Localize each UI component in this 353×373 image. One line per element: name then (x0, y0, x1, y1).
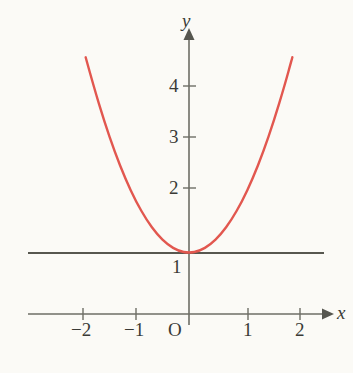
graph-figure: y x O −2 −1 1 2 1 2 3 4 (0, 0, 353, 373)
origin-label: O (168, 320, 182, 339)
x-tick-label-1: 1 (243, 320, 253, 339)
x-axis-label: x (337, 303, 345, 322)
y-tick-label-2: 2 (169, 178, 179, 197)
x-axis-arrowhead (322, 309, 334, 320)
y-tick-label-3: 3 (169, 127, 179, 146)
y-tick-label-4: 4 (169, 76, 179, 95)
y-tick-label-1: 1 (172, 257, 182, 276)
x-tick-label-2: 2 (295, 320, 305, 339)
y-axis-label: y (182, 11, 190, 30)
x-tick-label-minus1: −1 (124, 320, 144, 339)
x-tick-label-minus2: −2 (71, 320, 91, 339)
